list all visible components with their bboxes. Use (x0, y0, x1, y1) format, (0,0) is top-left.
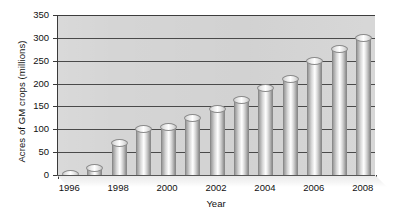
bar-top-ellipse (184, 114, 201, 122)
bar-body (112, 143, 127, 175)
y-tick-mark (53, 61, 57, 62)
bar (161, 127, 176, 175)
y-tick-mark (53, 84, 57, 85)
gridline (58, 84, 375, 85)
bar-body (136, 129, 151, 175)
y-tick-label: 0 (9, 169, 49, 180)
x-tick-label: 2004 (243, 182, 287, 193)
y-tick-mark (53, 106, 57, 107)
bar-chart: Acres of GM crops (millions) 05010015020… (0, 0, 393, 222)
bar-body (161, 127, 176, 175)
y-tick-label: 200 (9, 78, 49, 89)
y-tick-label: 300 (9, 32, 49, 43)
bar-body (234, 100, 249, 175)
bar-top-ellipse (160, 123, 177, 131)
x-axis-title: Year (57, 198, 375, 209)
bar-top-ellipse (233, 96, 250, 104)
plot-area (57, 15, 375, 175)
y-tick-mark (53, 129, 57, 130)
bar-top-ellipse (209, 105, 226, 113)
bar (283, 79, 298, 175)
bar-body (356, 38, 371, 175)
y-tick-label: 150 (9, 100, 49, 111)
y-tick-label: 250 (9, 55, 49, 66)
bar-body (307, 61, 322, 175)
y-tick-label: 350 (9, 9, 49, 20)
gridline (58, 15, 375, 16)
bar (234, 100, 249, 175)
bar-top-ellipse (282, 75, 299, 83)
bar (136, 129, 151, 175)
bar-body (185, 118, 200, 175)
x-tick-label: 2002 (194, 182, 238, 193)
bar (112, 143, 127, 175)
bar (307, 61, 322, 175)
x-tick-label: 1996 (47, 182, 91, 193)
bar-body (258, 88, 273, 175)
y-tick-mark (53, 152, 57, 153)
y-tick-mark (53, 38, 57, 39)
bar-body (210, 109, 225, 175)
x-tick-label: 2006 (292, 182, 336, 193)
bar (258, 88, 273, 175)
bar-top-ellipse (306, 57, 323, 65)
x-tick-label: 2008 (341, 182, 385, 193)
x-tick-label: 1998 (96, 182, 140, 193)
bar (185, 118, 200, 175)
bar (87, 168, 102, 175)
bar (332, 49, 347, 175)
gridline (58, 61, 375, 62)
bar (356, 38, 371, 175)
bar (210, 109, 225, 175)
y-tick-label: 50 (9, 146, 49, 157)
bar-body (283, 79, 298, 175)
x-axis-line (57, 175, 375, 176)
y-tick-mark (53, 15, 57, 16)
y-tick-label: 100 (9, 123, 49, 134)
bar-body (332, 49, 347, 175)
bar-top-ellipse (111, 139, 128, 147)
x-tick-label: 2000 (145, 182, 189, 193)
gridline (58, 38, 375, 39)
bar-top-ellipse (355, 34, 372, 42)
y-tick-mark (53, 175, 57, 176)
